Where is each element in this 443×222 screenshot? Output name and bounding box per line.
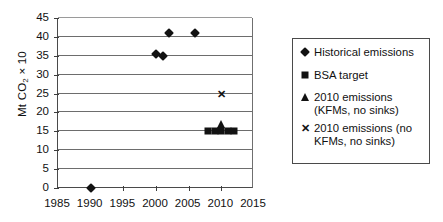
y-axis-tick-label: 25 [23, 88, 49, 99]
scatter-chart: Mt CO2 × 10 051015202530354045 198519901… [0, 0, 443, 222]
y-axis-tick-mark [54, 56, 59, 57]
y-axis-tick-label: 10 [23, 144, 49, 155]
square-marker-icon [300, 69, 313, 81]
y-axis-tick-label: 0 [23, 182, 49, 193]
gridline [58, 36, 252, 37]
y-axis-tick-mark [54, 75, 59, 76]
legend-item-label: 2010 emissions (KFMs, no sinks) [314, 91, 423, 116]
legend-item-2010-emissions-kfms-no-sinks: 2010 emissions (KFMs, no sinks) [300, 91, 423, 116]
y-axis-tick-mark [54, 37, 59, 38]
y-axis-tick-label: 35 [23, 50, 49, 61]
y-axis-tick-mark [54, 94, 59, 95]
legend-item-label: 2010 emissions (no KFMs, no sinks) [314, 122, 423, 147]
legend-item-label: Historical emissions [314, 46, 414, 59]
chart-legend: Historical emissions BSA target 2010 emi… [292, 38, 430, 164]
legend-item-2010-emissions-no-kfms-no-sinks: ✕ 2010 emissions (no KFMs, no sinks) [300, 122, 423, 147]
y-axis-tick-mark [54, 150, 59, 151]
y-axis-tick-mark [54, 18, 59, 19]
gridline [58, 111, 252, 112]
legend-item-historical-emissions: Historical emissions [300, 46, 423, 59]
gridline [58, 17, 252, 18]
plot-area: ✕ [57, 18, 253, 188]
y-axis-tick-label: 40 [23, 31, 49, 42]
diamond-data-point [86, 183, 96, 193]
gridline [58, 149, 252, 150]
y-axis-tick-mark [54, 169, 59, 170]
y-axis-tick-label: 5 [23, 163, 49, 174]
y-axis-tick-mark [54, 188, 59, 189]
legend-item-label: BSA target [314, 69, 368, 82]
square-data-point [231, 128, 238, 135]
y-axis-tick-mark [54, 112, 59, 113]
gridline [58, 74, 252, 75]
diamond-marker-icon [300, 46, 313, 58]
x-axis-tick-mark [123, 186, 124, 191]
triangle-marker-icon [300, 91, 313, 103]
cross-marker-icon: ✕ [300, 122, 313, 134]
y-axis-tick-label: 30 [23, 69, 49, 80]
x-axis-tick-label: 2015 [233, 198, 273, 209]
y-axis-tick-label: 15 [23, 125, 49, 136]
y-axis-tick-mark [54, 131, 59, 132]
legend-item-bsa-target: BSA target [300, 69, 423, 82]
triangle-data-point [217, 120, 225, 128]
x-axis-tick-mark [221, 186, 222, 191]
x-axis-tick-mark [156, 186, 157, 191]
cross-data-point: ✕ [217, 89, 226, 98]
x-axis-tick-mark [189, 186, 190, 191]
y-axis-tick-label: 45 [23, 12, 49, 23]
y-axis-tick-label: 20 [23, 106, 49, 117]
gridline [58, 168, 252, 169]
